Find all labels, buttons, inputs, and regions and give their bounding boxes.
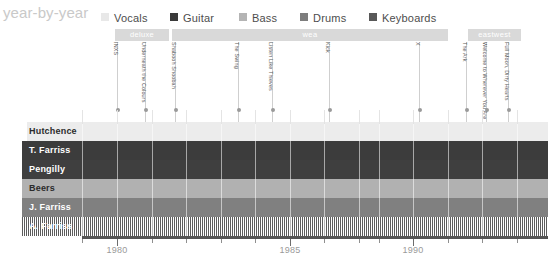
gridline (221, 179, 222, 198)
gridline (152, 217, 153, 236)
gridline (82, 179, 83, 198)
member-row[interactable]: Beers (0, 179, 548, 198)
gridline (82, 160, 83, 179)
album-marker[interactable]: Welcome to Wherever You Are (486, 42, 487, 124)
axis-tick (186, 239, 187, 243)
legend-item-keyboards[interactable]: Keyboards (369, 8, 436, 22)
gridline (117, 160, 118, 179)
gridline (82, 217, 83, 236)
gridline (482, 110, 483, 124)
album-name: X (415, 42, 421, 46)
legend-item-drums[interactable]: Drums (300, 8, 346, 22)
gridline (82, 122, 83, 141)
axis-tick (82, 239, 83, 243)
gridline (290, 141, 291, 160)
gridline (413, 160, 414, 179)
gridline (482, 160, 483, 179)
album-name: Full Moon, Dirty Hearts (504, 42, 510, 101)
gridline (255, 198, 256, 217)
album-dot-icon (271, 108, 275, 112)
page-title: year-by-year (3, 4, 88, 21)
album-dot-icon (144, 108, 148, 112)
gridline (221, 122, 222, 141)
album-name: INXS (113, 42, 119, 55)
gridline (448, 179, 449, 198)
gridline (448, 217, 449, 236)
gridline (152, 160, 153, 179)
member-row[interactable]: Pengilly (0, 160, 548, 179)
member-name: T. Farriss (29, 141, 71, 160)
gridline (152, 179, 153, 198)
member-row[interactable]: J. Farriss (0, 198, 548, 217)
gridline (324, 160, 325, 179)
member-bar (22, 217, 548, 236)
gridline (82, 198, 83, 217)
gridline (517, 160, 518, 179)
gridline (82, 110, 83, 124)
album-marker[interactable]: Full Moon, Dirty Hearts (508, 42, 509, 124)
axis-tick-label: 1980 (106, 245, 127, 255)
member-row[interactable]: T. Farriss (0, 141, 548, 160)
gridline (186, 110, 187, 124)
member-bar (22, 141, 548, 160)
gridline (448, 122, 449, 141)
gridline (221, 217, 222, 236)
gridline (379, 160, 380, 179)
gridline (117, 217, 118, 236)
album-marker[interactable]: Shabooh Shoobah (175, 42, 176, 124)
member-row[interactable]: Hutchence (0, 122, 548, 141)
member-name: Hutchence (29, 122, 77, 141)
gridline (517, 179, 518, 198)
album-marker[interactable]: Kick (329, 42, 330, 124)
gridline (152, 110, 153, 124)
member-name: Beers (29, 179, 55, 198)
gridline (82, 141, 83, 160)
gridline (186, 217, 187, 236)
gridline (324, 179, 325, 198)
gridline (117, 110, 118, 124)
album-marker[interactable]: Listen Like Thieves (272, 42, 273, 124)
gridline (290, 179, 291, 198)
legend-swatch-icon (101, 13, 109, 21)
gridline (324, 217, 325, 236)
gridline (359, 122, 360, 141)
member-bar (27, 122, 548, 141)
member-bar (22, 179, 548, 198)
gridline (379, 198, 380, 217)
album-name: Underneath the Colours (141, 42, 147, 103)
gridline (448, 110, 449, 124)
legend-label: Bass (252, 12, 277, 24)
gridline (379, 217, 380, 236)
legend-item-vocals[interactable]: Vocals (101, 8, 148, 22)
album-name: Listen Like Thieves (268, 42, 274, 91)
gridline (117, 198, 118, 217)
gridline (221, 141, 222, 160)
gridline (482, 217, 483, 236)
gridline (290, 198, 291, 217)
album-marker[interactable]: Underneath the Colours (145, 42, 146, 124)
axis-tick (448, 239, 449, 243)
gridline (324, 198, 325, 217)
gridline (290, 160, 291, 179)
gridline (379, 179, 380, 198)
axis-tick (324, 239, 325, 243)
gridline (379, 122, 380, 141)
gridline (482, 122, 483, 141)
gridline (290, 122, 291, 141)
gridline (413, 179, 414, 198)
gridline (152, 141, 153, 160)
member-row[interactable]: A. Farriss (0, 217, 548, 236)
legend-item-bass[interactable]: Bass (239, 8, 277, 22)
album-marker[interactable]: X (419, 42, 420, 124)
gridline (221, 110, 222, 124)
axis-tick-label: 1990 (402, 245, 423, 255)
legend-item-guitar[interactable]: Guitar (170, 8, 214, 22)
album-marker[interactable]: The Ark (466, 42, 467, 124)
record-label-bars: deluxeweaeastwest (0, 29, 548, 41)
gridline (324, 110, 325, 124)
gridline (359, 179, 360, 198)
album-marker[interactable]: The Swing (238, 42, 239, 124)
gridline (448, 141, 449, 160)
member-name: Pengilly (29, 160, 65, 179)
legend-label: Keyboards (382, 12, 436, 24)
